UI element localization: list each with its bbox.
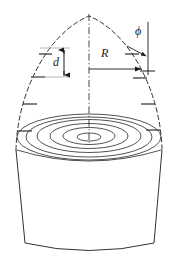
cone-base-arc: [25, 243, 154, 251]
cone-body: [16, 150, 162, 251]
technical-diagram-svg: [0, 0, 179, 264]
figure-container: d R ϕ: [0, 0, 179, 264]
dimension-label-d: d: [53, 56, 59, 68]
dimension-d: [32, 48, 70, 77]
cone-left-edge: [16, 150, 25, 243]
body-top-arc: [17, 150, 161, 161]
angle-label-phi: ϕ: [135, 25, 141, 37]
cone-right-edge: [154, 150, 162, 243]
ring-step-connectors: [17, 150, 161, 161]
dimension-label-R: R: [101, 47, 108, 59]
